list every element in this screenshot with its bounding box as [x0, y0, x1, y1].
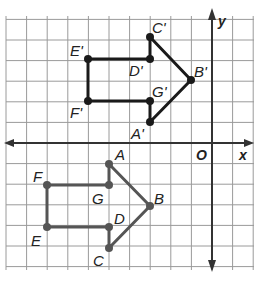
- label-c: C: [93, 252, 104, 269]
- label-b: B: [154, 190, 164, 207]
- y-axis-down-arrow-icon: [208, 260, 216, 272]
- label-g-prime: G': [152, 83, 168, 100]
- label-c-prime: C': [152, 19, 167, 36]
- label-a-prime: A': [130, 125, 145, 142]
- label-a: A: [114, 146, 125, 163]
- y-axis-label: y: [217, 13, 227, 29]
- label-e: E: [31, 232, 42, 249]
- y-axis: [208, 8, 216, 272]
- vertex-g: [105, 181, 113, 189]
- coordinate-grid-diagram: y x O A' B' C' D' E' F' G' A B C D E F G: [0, 0, 258, 296]
- x-axis-right-arrow-icon: [244, 139, 254, 147]
- vertex-c: [105, 244, 113, 252]
- origin-label: O: [196, 147, 207, 163]
- y-axis-up-arrow-icon: [208, 8, 216, 20]
- vertex-e: [43, 223, 51, 231]
- label-e-prime: E': [70, 42, 84, 59]
- label-f-prime: F': [70, 104, 83, 121]
- label-f: F: [33, 168, 43, 185]
- x-axis-label: x: [238, 147, 248, 163]
- label-d-prime: D': [129, 62, 144, 79]
- label-b-prime: B': [194, 63, 208, 80]
- image-figure: [84, 33, 195, 126]
- vertex-f-prime: [84, 97, 92, 105]
- vertex-f: [43, 181, 51, 189]
- vertex-d-prime: [146, 55, 154, 63]
- vertex-a-prime: [146, 118, 154, 126]
- vertex-a: [105, 160, 113, 168]
- vertex-d: [105, 223, 113, 231]
- label-g: G: [92, 190, 104, 207]
- x-axis: [4, 139, 254, 147]
- vertex-b: [146, 202, 154, 210]
- vertex-e-prime: [84, 55, 92, 63]
- label-d: D: [114, 210, 125, 227]
